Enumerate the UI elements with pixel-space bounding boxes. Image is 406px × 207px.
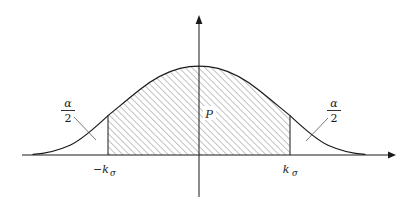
- x-axis-arrowhead-icon: [388, 152, 396, 159]
- left-alpha-half-label: α 2: [61, 97, 75, 125]
- right-tick-main: k: [283, 163, 290, 176]
- right-alpha-numerator: α: [330, 97, 338, 110]
- left-tick-label: −k σ: [93, 163, 116, 178]
- center-probability-label: P: [203, 106, 216, 121]
- right-tick-sigma: σ: [292, 168, 298, 178]
- y-axis-arrowhead-icon: [196, 15, 203, 24]
- left-alpha-leader-line: [74, 117, 96, 140]
- left-alpha-numerator: α: [64, 97, 72, 110]
- distribution-diagram: α 2 α 2 P −k σ k σ: [0, 0, 406, 207]
- right-alpha-half-label: α 2: [327, 97, 341, 125]
- left-tick-sigma: σ: [110, 168, 116, 178]
- left-tick-main: −k: [93, 163, 109, 176]
- right-tick-label: k σ: [283, 163, 298, 178]
- figure-container: α 2 α 2 P −k σ k σ: [0, 0, 406, 207]
- left-alpha-denominator: 2: [65, 112, 72, 125]
- right-alpha-leader-line: [306, 118, 328, 141]
- right-alpha-denominator: 2: [331, 112, 338, 125]
- p-label-text: P: [204, 107, 213, 121]
